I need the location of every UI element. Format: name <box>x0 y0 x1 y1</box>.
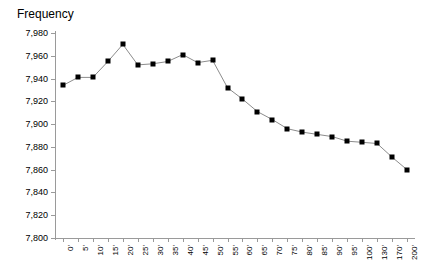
data-point-marker <box>165 59 170 64</box>
x-axis-tick-label: 80' <box>305 245 314 255</box>
data-point-marker <box>390 155 395 160</box>
x-axis-tick-mark <box>377 238 378 242</box>
data-point-marker <box>210 58 215 63</box>
y-axis-tick-mark <box>51 101 56 102</box>
x-axis-tick-mark <box>123 238 124 242</box>
x-axis-tick-label: 85' <box>320 245 329 255</box>
x-axis-tick-label: 30' <box>156 245 165 255</box>
data-point-marker <box>375 141 380 146</box>
x-axis-tick-mark <box>257 238 258 242</box>
x-axis-tick-mark <box>198 238 199 242</box>
y-axis-tick-label: 7,920 <box>0 96 48 106</box>
y-axis-tick-mark <box>51 79 56 80</box>
x-axis-tick-mark <box>407 238 408 242</box>
x-axis-tick-label: 10' <box>96 245 105 255</box>
x-axis-tick-label: 45' <box>201 245 210 255</box>
x-axis-tick-label: 40' <box>186 245 195 255</box>
data-point-marker <box>300 130 305 135</box>
x-axis-tick-label: 50' <box>216 245 225 255</box>
y-axis-tick-label: 7,900 <box>0 119 48 129</box>
data-point-marker <box>105 59 110 64</box>
data-point-marker <box>90 75 95 80</box>
x-axis-tick-label: 170' <box>395 245 404 260</box>
data-point-marker <box>345 139 350 144</box>
x-axis-tick-label: 65' <box>260 245 269 255</box>
x-axis-tick-label: 60' <box>245 245 254 255</box>
x-axis-tick-label: 0' <box>66 245 75 251</box>
y-axis-tick-mark <box>51 215 56 216</box>
data-point-marker <box>330 134 335 139</box>
x-axis-tick-mark <box>362 238 363 242</box>
data-point-marker <box>75 75 80 80</box>
x-axis-tick-mark <box>138 238 139 242</box>
x-axis-tick-label: 15' <box>111 245 120 255</box>
y-axis-tick-mark <box>51 33 56 34</box>
y-axis-tick-mark <box>51 170 56 171</box>
data-point-marker <box>195 60 200 65</box>
y-axis-tick-label: 7,800 <box>0 233 48 243</box>
x-axis-tick-mark <box>272 238 273 242</box>
data-point-marker <box>150 61 155 66</box>
x-axis-tick-label: 25' <box>141 245 150 255</box>
x-axis-tick-label: 95' <box>350 245 359 255</box>
x-axis-line <box>55 238 415 239</box>
y-axis-tick-label: 7,940 <box>0 74 48 84</box>
x-axis-tick-mark <box>213 238 214 242</box>
data-point-marker <box>240 97 245 102</box>
data-point-marker <box>405 167 410 172</box>
x-axis-tick-mark <box>242 238 243 242</box>
data-point-marker <box>255 109 260 114</box>
x-axis-tick-label: 55' <box>231 245 240 255</box>
x-axis-tick-label: 5' <box>81 245 90 251</box>
x-axis-tick-mark <box>78 238 79 242</box>
x-axis-tick-label: 75' <box>290 245 299 255</box>
x-axis-tick-mark <box>63 238 64 242</box>
x-axis-tick-mark <box>183 238 184 242</box>
data-point-marker <box>360 140 365 145</box>
chart-title: Frequency <box>17 7 74 21</box>
x-axis-tick-mark <box>228 238 229 242</box>
x-axis-tick-mark <box>302 238 303 242</box>
y-axis-tick-mark <box>51 124 56 125</box>
x-axis-tick-mark <box>392 238 393 242</box>
y-axis-tick-label: 7,960 <box>0 51 48 61</box>
y-axis-tick-mark <box>51 238 56 239</box>
x-axis-tick-label: 130' <box>380 245 389 260</box>
y-axis-tick-mark <box>51 56 56 57</box>
data-point-marker <box>225 85 230 90</box>
data-point-marker <box>120 42 125 47</box>
x-axis-tick-mark <box>287 238 288 242</box>
x-axis-tick-label: 70' <box>275 245 284 255</box>
data-point-marker <box>285 126 290 131</box>
y-axis-line <box>55 31 56 240</box>
y-axis-tick-label: 7,880 <box>0 142 48 152</box>
y-axis-tick-label: 7,820 <box>0 210 48 220</box>
x-axis-tick-label: 200' <box>410 245 419 260</box>
x-axis-tick-mark <box>332 238 333 242</box>
y-axis-tick-label: 7,840 <box>0 187 48 197</box>
x-axis-tick-mark <box>168 238 169 242</box>
data-point-marker <box>180 52 185 57</box>
frequency-line-chart: Frequency 7,8007,8207,8407,8607,8807,900… <box>0 0 424 280</box>
data-point-marker <box>270 117 275 122</box>
y-axis-tick-mark <box>51 192 56 193</box>
x-axis-tick-label: 35' <box>171 245 180 255</box>
x-axis-tick-label: 100' <box>365 245 374 260</box>
x-axis-tick-label: 90' <box>335 245 344 255</box>
x-axis-tick-mark <box>347 238 348 242</box>
y-axis-tick-label: 7,980 <box>0 28 48 38</box>
x-axis-tick-mark <box>93 238 94 242</box>
x-axis-tick-label: 20' <box>126 245 135 255</box>
x-axis-tick-mark <box>153 238 154 242</box>
data-point-marker <box>315 132 320 137</box>
x-axis-tick-mark <box>108 238 109 242</box>
x-axis-tick-mark <box>317 238 318 242</box>
y-axis-tick-label: 7,860 <box>0 165 48 175</box>
data-point-marker <box>61 83 66 88</box>
y-axis-tick-mark <box>51 147 56 148</box>
data-point-marker <box>135 62 140 67</box>
